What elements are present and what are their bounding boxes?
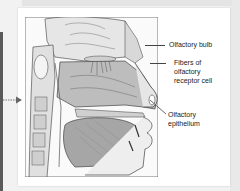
left-panel-edge bbox=[0, 32, 3, 191]
label-epithelium-line1: Olfactory bbox=[168, 111, 196, 119]
label-olfactory-bulb: Olfactory bulb bbox=[169, 41, 212, 49]
label-fibers-line3: receptor cell bbox=[174, 77, 212, 85]
right-page-edge bbox=[230, 0, 240, 191]
head-cross-section-illustration bbox=[25, 17, 158, 177]
dotted-arrow-icon bbox=[3, 96, 23, 104]
olfactory-bulb-leader bbox=[145, 45, 165, 46]
label-epithelium-line2: epithelium bbox=[168, 120, 200, 128]
label-fibers-line1: Fibers of bbox=[174, 59, 201, 67]
top-page-strip bbox=[22, 0, 232, 6]
epithelium-leader bbox=[150, 100, 168, 116]
fibers-leader bbox=[150, 63, 166, 64]
label-fibers-line2: olfactory bbox=[174, 68, 200, 76]
